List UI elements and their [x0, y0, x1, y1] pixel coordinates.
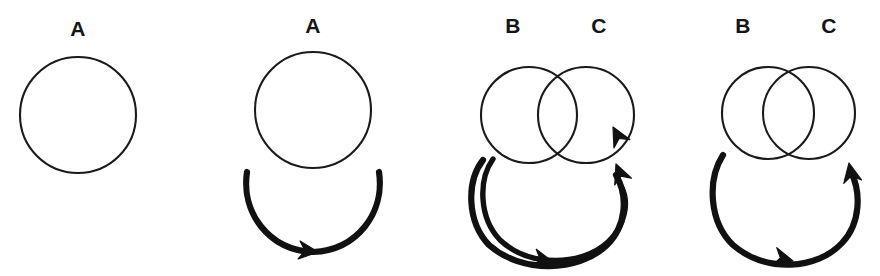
node-a-shape [20, 57, 136, 173]
figure-content: AABCBC [20, 14, 861, 271]
self-loop-bc-path [713, 155, 858, 265]
node-a-shape [255, 52, 371, 168]
node-label: C [821, 14, 837, 37]
node-label: B [735, 14, 751, 37]
node-label: A [305, 14, 321, 37]
single-node-one-loop: A [246, 14, 380, 261]
node-label: C [591, 14, 607, 37]
arrowhead-upper-right-icon [605, 123, 630, 148]
two-nodes-heavy-overlap-one-loop: BC [713, 14, 862, 270]
figure-root: AABCBC [0, 0, 880, 276]
two-nodes-partial-overlap-two-loops: BC [471, 14, 634, 271]
node-b-shape [722, 67, 814, 159]
node-label: B [505, 14, 521, 37]
arrowhead-right-icon [840, 161, 861, 183]
node-label: A [70, 17, 86, 40]
node-c-shape [763, 67, 855, 159]
loop-inner-path [483, 159, 626, 261]
single-node-no-loop: A [20, 17, 136, 173]
figure-canvas: AABCBC [0, 0, 880, 276]
node-b-shape [481, 67, 577, 163]
self-loop-a-path [246, 172, 380, 252]
node-c-shape [538, 67, 634, 163]
